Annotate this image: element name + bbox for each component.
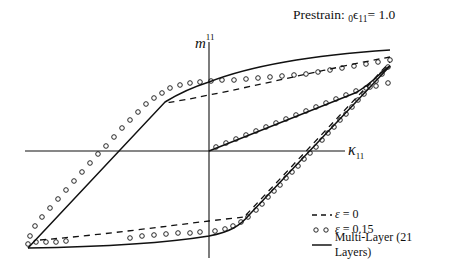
y-label-symbol: m <box>195 35 206 51</box>
data-point <box>213 229 218 234</box>
data-point <box>40 215 45 220</box>
data-point <box>198 230 203 235</box>
x-label-subscript: 11 <box>356 151 365 161</box>
data-point <box>152 233 157 238</box>
title-subscript: 11 <box>358 14 367 24</box>
y-label-superscript: 11 <box>206 32 215 42</box>
data-point <box>188 231 193 236</box>
data-point <box>136 110 141 115</box>
data-point <box>56 197 61 202</box>
title-prefix: Prestrain: <box>293 7 348 22</box>
data-point <box>152 96 157 101</box>
data-point <box>160 91 165 96</box>
data-point <box>96 152 101 157</box>
data-point <box>64 188 69 193</box>
data-point <box>316 70 321 75</box>
data-point <box>386 81 391 86</box>
title-presubscript: 0 <box>348 14 353 24</box>
data-point <box>144 102 149 107</box>
data-point <box>140 234 145 239</box>
data-point <box>304 72 309 77</box>
data-point <box>292 73 297 78</box>
data-point <box>26 242 31 247</box>
data-point <box>256 76 261 81</box>
data-point <box>64 239 69 244</box>
legend-item-solid: Multi-Layer (21 Layers) <box>312 237 450 252</box>
data-point <box>223 227 228 232</box>
y-axis-label: m11 <box>195 34 215 52</box>
data-point <box>280 74 285 79</box>
data-point <box>33 224 38 229</box>
data-point <box>328 68 333 73</box>
data-point <box>104 144 109 149</box>
data-point <box>176 231 181 236</box>
axes <box>25 42 345 258</box>
data-point <box>44 240 49 245</box>
legend: ε = 0 ε = 0.15 Multi-Layer (21 Layers) <box>312 207 450 252</box>
data-point <box>54 240 59 245</box>
chart-title: Prestrain: 0ϵ11= 1.0 <box>293 7 395 23</box>
legend-label: Multi-Layer (21 Layers) <box>335 230 450 260</box>
data-point <box>198 80 203 85</box>
data-point <box>48 206 53 211</box>
dashed-line-icon <box>312 210 332 220</box>
data-point <box>88 161 93 166</box>
data-point <box>268 75 273 80</box>
data-point <box>168 86 173 91</box>
data-point <box>188 81 193 86</box>
data-point <box>28 234 33 239</box>
data-point <box>72 179 77 184</box>
data-point <box>244 77 249 82</box>
data-point <box>220 78 225 83</box>
data-point <box>178 83 183 88</box>
legend-item-dashed: ε = 0 <box>312 207 450 222</box>
solid-line-icon <box>312 240 332 250</box>
data-point <box>112 135 117 140</box>
data-point <box>364 62 369 67</box>
data-point <box>80 170 85 175</box>
data-point <box>374 84 379 89</box>
data-point <box>388 58 393 63</box>
data-point <box>128 236 133 241</box>
legend-label: ε = 0 <box>335 207 359 222</box>
data-point <box>120 126 125 131</box>
title-suffix: = 1.0 <box>368 7 396 22</box>
x-label-symbol: κ <box>348 141 356 158</box>
x-axis-label: κ11 <box>348 141 364 161</box>
data-point <box>128 118 133 123</box>
circle-marker-icon <box>312 225 332 235</box>
data-point <box>164 232 169 237</box>
data-point <box>376 60 381 65</box>
data-point <box>232 78 237 83</box>
